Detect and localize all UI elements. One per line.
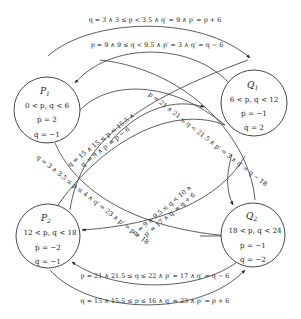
svg-text:q̇ = −2: q̇ = −2	[240, 255, 266, 264]
svg-text:6 < p, q < 12: 6 < p, q < 12	[230, 95, 279, 104]
svg-text:ṗ = −1: ṗ = −1	[241, 109, 267, 118]
svg-text:18 < p, q < 24: 18 < p, q < 24	[228, 226, 282, 235]
state-p1: P1 0 < p, q < 6 ṗ = 2 q̇ = −1	[14, 77, 80, 143]
state-q1: Q1 6 < p, q < 12 ṗ = −1 q̇ = 2	[221, 70, 287, 136]
label-p1-q1: q = 3 ∧ 3 ≤ p < 3.5 ∧ q′ = 9 ∧ p′ = p + …	[89, 16, 222, 24]
svg-text:12 < p, q < 18: 12 < p, q < 18	[23, 228, 77, 237]
hybrid-automaton-diagram: P1 0 < p, q < 6 ṗ = 2 q̇ = −1 Q1 6 < p, …	[0, 0, 301, 319]
label-q2-p2: p = 21 ∧ 21.5 ≤ q ≤ 22 ∧ p′ = 17 ∧ q′ = …	[81, 272, 230, 280]
label-p2-q2: q = 15 ∧ 15.5 ≤ p ≤ 16 ∧ q′ = 23 ∧ p′ = …	[81, 297, 230, 305]
transition-q1-p1	[75, 52, 228, 83]
state-q2: Q2 18 < p, q < 24 ṗ = −1 q̇ = −2	[221, 203, 285, 267]
svg-text:q̇ = −1: q̇ = −1	[34, 130, 60, 139]
state-p2: P2 12 < p, q < 18 ṗ = −2 q̇ = −1	[16, 204, 80, 268]
svg-text:q̇ = 2: q̇ = 2	[244, 123, 264, 132]
transition-q1-p2-arc	[70, 60, 248, 210]
label-q1-p1: p = 9 ∧ 9 ≤ q < 9.5 ∧ p′ = 3 ∧ q′ = q − …	[91, 41, 224, 49]
svg-text:ṗ = −1: ṗ = −1	[240, 241, 266, 250]
svg-text:ṗ = −2: ṗ = −2	[35, 243, 61, 252]
svg-text:q̇ = −1: q̇ = −1	[35, 257, 61, 266]
svg-text:0 < p, q < 6: 0 < p, q < 6	[25, 101, 70, 110]
svg-text:ṗ = 2: ṗ = 2	[37, 115, 57, 124]
